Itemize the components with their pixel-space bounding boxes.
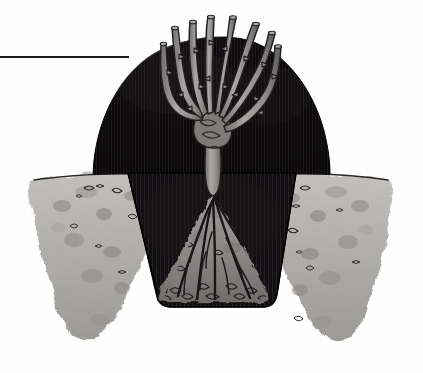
paper-grain-overlay — [0, 0, 423, 373]
planting-diagram-illustration — [0, 0, 423, 373]
illustration-canvas: Bare-root shrub planted in a dug hole (c… — [0, 0, 423, 373]
